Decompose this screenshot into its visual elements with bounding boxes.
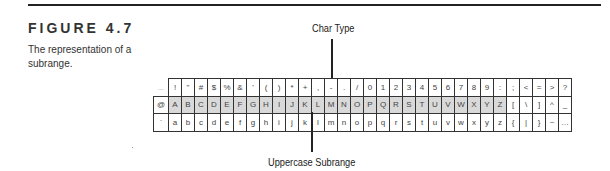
char-cell: k bbox=[299, 114, 312, 132]
char-cell: y bbox=[481, 114, 494, 132]
char-cell: 7 bbox=[455, 79, 468, 97]
char-cell: b bbox=[182, 114, 195, 132]
char-cell: A bbox=[169, 96, 182, 114]
char-cell: % bbox=[221, 79, 234, 97]
char-cell: ^ bbox=[546, 96, 559, 114]
char-cell: ] bbox=[533, 96, 546, 114]
char-cell: * bbox=[286, 79, 299, 97]
char-cell: _ bbox=[559, 96, 572, 114]
char-cell: | bbox=[520, 114, 533, 132]
char-cell: J bbox=[286, 96, 299, 114]
char-cell: G bbox=[247, 96, 260, 114]
grid-row: @ABCDEFGHIJKLMNOPQRSTUVWXYZ[\]^_ bbox=[154, 96, 572, 114]
character-grid: ...!"#$%&'()*+,-./0123456789:;<=>?@ABCDE… bbox=[153, 78, 572, 132]
char-cell: 4 bbox=[416, 79, 429, 97]
char-cell: \ bbox=[520, 96, 533, 114]
char-cell: 6 bbox=[442, 79, 455, 97]
char-cell: : bbox=[494, 79, 507, 97]
char-cell: } bbox=[533, 114, 546, 132]
char-cell: l bbox=[312, 114, 325, 132]
char-cell: W bbox=[455, 96, 468, 114]
grid-row: ...!"#$%&'()*+,-./0123456789:;<=>? bbox=[154, 79, 572, 97]
char-cell: T bbox=[416, 96, 429, 114]
char-cell: , bbox=[312, 79, 325, 97]
char-cell: t bbox=[416, 114, 429, 132]
char-cell: X bbox=[468, 96, 481, 114]
char-cell: j bbox=[286, 114, 299, 132]
char-cell: V bbox=[442, 96, 455, 114]
char-cell: 1 bbox=[377, 79, 390, 97]
char-cell: q bbox=[377, 114, 390, 132]
char-cell: v bbox=[442, 114, 455, 132]
char-cell: E bbox=[221, 96, 234, 114]
char-cell: > bbox=[546, 79, 559, 97]
char-cell: 3 bbox=[403, 79, 416, 97]
char-cell: # bbox=[195, 79, 208, 97]
grid-row: `abcdefghijklmnopqrstuvwxyz{|}~… bbox=[154, 114, 572, 132]
char-cell: o bbox=[351, 114, 364, 132]
char-cell: ; bbox=[507, 79, 520, 97]
char-cell: R bbox=[390, 96, 403, 114]
char-cell: n bbox=[338, 114, 351, 132]
char-cell: " bbox=[182, 79, 195, 97]
row-header-cell: ` bbox=[154, 114, 169, 132]
char-cell: = bbox=[533, 79, 546, 97]
char-cell: ( bbox=[260, 79, 273, 97]
char-cell: H bbox=[260, 96, 273, 114]
char-cell: B bbox=[182, 96, 195, 114]
char-cell: - bbox=[325, 79, 338, 97]
char-cell: Z bbox=[494, 96, 507, 114]
row-header-cell: ... bbox=[154, 79, 169, 97]
char-cell: $ bbox=[208, 79, 221, 97]
char-cell: ? bbox=[559, 79, 572, 97]
char-cell: 2 bbox=[390, 79, 403, 97]
uppercase-subrange-label: Uppercase Subrange bbox=[268, 156, 355, 168]
char-cell: ' bbox=[247, 79, 260, 97]
speck bbox=[132, 147, 133, 148]
char-cell: D bbox=[208, 96, 221, 114]
char-cell: 0 bbox=[364, 79, 377, 97]
char-cell: O bbox=[351, 96, 364, 114]
char-cell: N bbox=[338, 96, 351, 114]
char-cell: F bbox=[234, 96, 247, 114]
figure-caption: The representation of a subrange. bbox=[28, 43, 148, 71]
char-cell: m bbox=[325, 114, 338, 132]
char-cell: { bbox=[507, 114, 520, 132]
char-cell: ~ bbox=[546, 114, 559, 132]
char-cell: / bbox=[351, 79, 364, 97]
char-cell: & bbox=[234, 79, 247, 97]
char-cell: < bbox=[520, 79, 533, 97]
char-cell: Q bbox=[377, 96, 390, 114]
char-type-label: Char Type bbox=[312, 22, 354, 34]
char-cell: P bbox=[364, 96, 377, 114]
char-cell: f bbox=[234, 114, 247, 132]
char-cell: a bbox=[169, 114, 182, 132]
char-cell: M bbox=[325, 96, 338, 114]
char-cell: i bbox=[273, 114, 286, 132]
row-header-cell: @ bbox=[154, 96, 169, 114]
char-cell: x bbox=[468, 114, 481, 132]
char-cell: 8 bbox=[468, 79, 481, 97]
char-cell: h bbox=[260, 114, 273, 132]
char-cell: d bbox=[208, 114, 221, 132]
char-type-pointer-line bbox=[331, 39, 333, 79]
char-cell: ) bbox=[273, 79, 286, 97]
top-rule bbox=[28, 4, 601, 6]
char-cell: I bbox=[273, 96, 286, 114]
char-cell: z bbox=[494, 114, 507, 132]
char-cell: K bbox=[299, 96, 312, 114]
figure-title: FIGURE 4.7 bbox=[28, 20, 134, 36]
char-cell: c bbox=[195, 114, 208, 132]
char-cell: ! bbox=[169, 79, 182, 97]
char-cell: g bbox=[247, 114, 260, 132]
char-cell: r bbox=[390, 114, 403, 132]
char-cell: u bbox=[429, 114, 442, 132]
char-cell: + bbox=[299, 79, 312, 97]
uppercase-subrange-pointer-line bbox=[311, 112, 313, 152]
char-cell: e bbox=[221, 114, 234, 132]
char-cell: p bbox=[364, 114, 377, 132]
char-cell: C bbox=[195, 96, 208, 114]
char-cell: 5 bbox=[429, 79, 442, 97]
char-cell: Y bbox=[481, 96, 494, 114]
char-cell: U bbox=[429, 96, 442, 114]
